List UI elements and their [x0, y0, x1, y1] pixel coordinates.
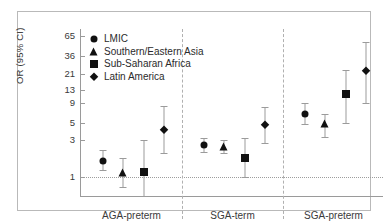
- error-bar-cap: [342, 70, 349, 71]
- legend-marker-glyph: [90, 60, 98, 68]
- error-bar-cap: [261, 107, 268, 108]
- data-point-square-icon: [140, 168, 148, 176]
- y-axis-title: OR (95% CI): [14, 0, 25, 84]
- error-bar-cap: [362, 42, 369, 43]
- y-axis-tick-label: 65: [49, 31, 75, 41]
- error-bar-cap: [120, 158, 127, 159]
- error-bar-cap: [241, 177, 248, 178]
- error-bar-cap: [322, 114, 329, 115]
- data-point-diamond-icon: [361, 67, 370, 76]
- y-axis-tick-mark: [81, 90, 85, 91]
- legend-item[interactable]: Sub-Saharan Africa: [89, 58, 204, 71]
- y-axis-tick-mark: [81, 140, 85, 141]
- data-point-diamond-icon: [260, 121, 269, 130]
- error-bar-cap: [160, 153, 167, 154]
- legend-diamond-icon: [89, 72, 99, 82]
- error-bar-cap: [322, 137, 329, 138]
- y-axis-tick-mark: [81, 74, 85, 75]
- error-bar-cap: [302, 103, 309, 104]
- data-point-circle-icon: [201, 142, 208, 149]
- error-bar-cap: [221, 140, 228, 141]
- error-bar-cap: [342, 123, 349, 124]
- error-bar-cap: [302, 124, 309, 125]
- y-axis-tick-label: 13: [49, 85, 75, 95]
- data-point-triangle-icon: [220, 142, 228, 150]
- x-axis-group-label: SGA-preterm: [304, 210, 363, 221]
- y-axis-tick-mark: [81, 36, 85, 37]
- legend-marker-glyph: [90, 47, 98, 55]
- error-bar-cap: [140, 140, 147, 141]
- error-bar-cap: [160, 106, 167, 107]
- error-bar-cap: [120, 187, 127, 188]
- reference-line: [81, 177, 383, 178]
- x-axis-group-label: AGA-preterm: [102, 210, 161, 221]
- y-axis-tick-mark: [81, 103, 85, 104]
- x-axis-group-label: SGA-term: [210, 210, 254, 221]
- error-bar-cap: [140, 196, 147, 197]
- y-axis-tick-label: 1: [49, 172, 75, 182]
- legend-marker-glyph: [90, 72, 99, 81]
- legend-item-label: Southern/Eastern Asia: [104, 47, 204, 57]
- plot-panel: 135913213665AGA-pretermSGA-termSGA-prete…: [80, 29, 383, 197]
- legend-square-icon: [89, 59, 99, 69]
- legend-item-label: Latin America: [104, 72, 165, 82]
- error-bar-cap: [241, 138, 248, 139]
- figure-frame: OR (95% CI) 135913213665AGA-pretermSGA-t…: [17, 11, 371, 211]
- data-point-square-icon: [241, 154, 249, 162]
- data-point-square-icon: [342, 90, 350, 98]
- error-bar-cap: [201, 138, 208, 139]
- chart-screenshot: OR (95% CI) 135913213665AGA-pretermSGA-t…: [0, 0, 390, 222]
- error-bar-cap: [201, 152, 208, 153]
- group-separator: [283, 29, 284, 219]
- legend-item-label: LMIC: [104, 34, 128, 44]
- legend-triangle-icon: [89, 47, 99, 57]
- y-axis-tick-label: 36: [49, 51, 75, 61]
- data-point-triangle-icon: [321, 120, 329, 128]
- data-point-diamond-icon: [159, 125, 168, 134]
- legend-item-label: Sub-Saharan Africa: [104, 59, 191, 69]
- y-axis-tick-mark: [81, 123, 85, 124]
- chart-legend: LMICSouthern/Eastern AsiaSub-Saharan Afr…: [89, 33, 204, 83]
- legend-item[interactable]: Southern/Eastern Asia: [89, 46, 204, 59]
- legend-circle-icon: [89, 34, 99, 44]
- data-point-triangle-icon: [119, 169, 127, 177]
- y-axis-tick-mark: [81, 56, 85, 57]
- error-bar-cap: [261, 143, 268, 144]
- legend-item[interactable]: LMIC: [89, 33, 204, 46]
- legend-marker-glyph: [91, 36, 98, 43]
- legend-item[interactable]: Latin America: [89, 71, 204, 84]
- error-bar-cap: [100, 170, 107, 171]
- y-axis-tick-label: 21: [49, 69, 75, 79]
- error-bar-cap: [362, 103, 369, 104]
- error-bar-cap: [100, 150, 107, 151]
- y-axis-tick-label: 5: [49, 118, 75, 128]
- error-bar-cap: [221, 153, 228, 154]
- data-point-circle-icon: [302, 110, 309, 117]
- data-point-circle-icon: [100, 157, 107, 164]
- y-axis-tick-label: 3: [49, 135, 75, 145]
- y-axis-tick-label: 9: [49, 98, 75, 108]
